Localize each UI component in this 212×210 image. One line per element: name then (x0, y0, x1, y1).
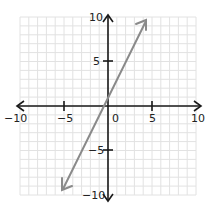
y-tick-label-10: 10 (89, 11, 103, 24)
y-axis (103, 15, 113, 201)
line-series-y-2x-plus-1 (62, 20, 146, 190)
x-tick-label-neg5: −5 (57, 112, 73, 125)
chart-canvas: −10 −5 0 5 10 10 5 −5 −10 (0, 0, 212, 210)
x-tick-label-neg10: −10 (4, 112, 27, 125)
y-tick-label-neg10: −10 (82, 189, 105, 202)
coordinate-plane-chart: −10 −5 0 5 10 10 5 −5 −10 (0, 0, 212, 210)
y-tick-label-neg5: −5 (88, 144, 104, 157)
x-tick-label-10: 10 (191, 112, 205, 125)
x-tick-label-5: 5 (149, 112, 156, 125)
x-axis (17, 101, 201, 111)
y-tick-label-5: 5 (93, 55, 100, 68)
origin-label: 0 (112, 112, 119, 125)
